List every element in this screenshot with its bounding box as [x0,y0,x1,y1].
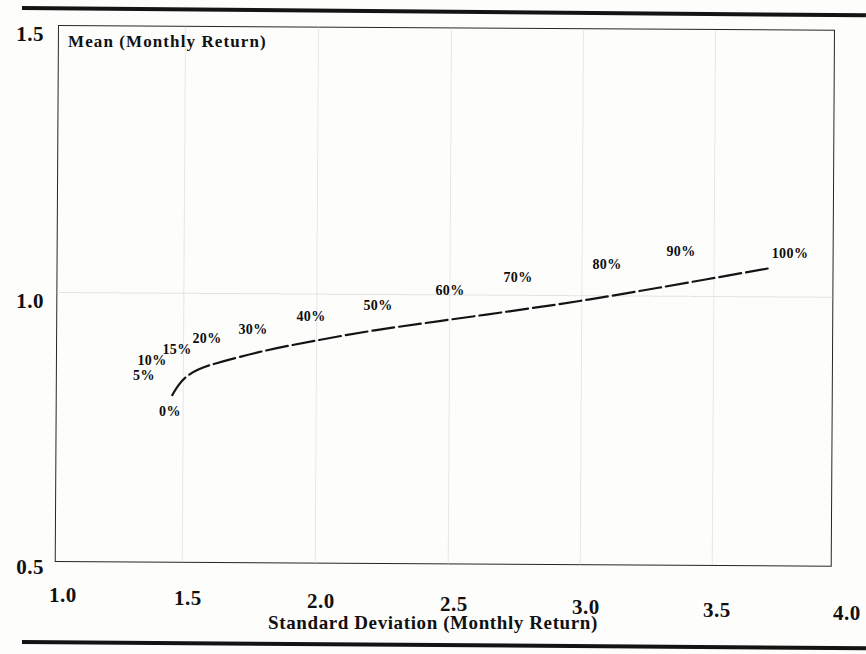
data-point-label: 80% [592,257,621,273]
data-point-label: 90% [666,244,695,260]
data-point-label: 40% [296,309,325,325]
data-point-label: 20% [192,331,221,347]
data-point-label: 30% [238,322,267,338]
data-point-label: 5% [133,368,155,384]
data-point-label: 100% [772,246,809,262]
efficient-frontier-curve [0,0,866,654]
data-point-label: 15% [162,342,191,358]
data-point-label: 60% [435,283,464,299]
data-point-label: 70% [503,270,532,286]
chart-page: Mean (Monthly Return) Standard Deviation… [0,0,866,654]
data-point-label: 0% [159,404,181,420]
data-point-label: 50% [363,298,392,314]
